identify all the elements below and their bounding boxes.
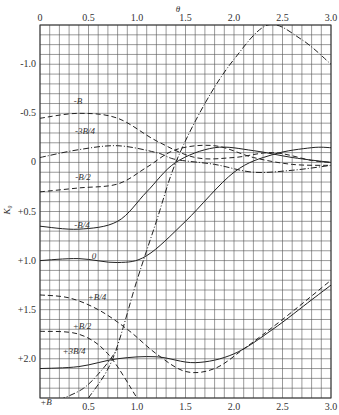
x-axis-title: θ (176, 4, 181, 14)
curve-label: 0 (92, 251, 97, 261)
curve-label: +3B/4 (62, 346, 86, 356)
y-tick: +0.5 (18, 206, 36, 217)
x-tick-bottom: 1.0 (131, 401, 144, 412)
x-tick-top: 2.0 (228, 12, 241, 23)
x-tick-top: 2.5 (276, 12, 289, 23)
curve-label: +B/4 (88, 292, 107, 302)
curve-label: +B (40, 397, 52, 407)
x-tick-top: 1.0 (131, 12, 144, 23)
curve-label: -B (74, 96, 83, 106)
x-tick-top: 0.5 (82, 12, 95, 23)
x-tick-bottom: 3.0 (325, 401, 338, 412)
curve-label: -B/2 (75, 172, 91, 182)
y-tick: -1.0 (20, 58, 36, 69)
x-tick-bottom: 0.5 (82, 401, 95, 412)
curve-label: +B/2 (73, 321, 92, 331)
y-tick: +2.0 (18, 353, 36, 364)
chart: 00.50.51.01.01.51.52.02.02.52.53.03.0-1.… (0, 0, 339, 415)
x-tick-top: 3.0 (325, 12, 338, 23)
grid (40, 25, 331, 398)
y-tick: +1.0 (18, 255, 36, 266)
x-tick-bottom: 2.0 (228, 401, 241, 412)
x-tick-bottom: 2.5 (276, 401, 289, 412)
x-tick-bottom: 1.5 (179, 401, 192, 412)
x-tick-top: 0 (38, 12, 43, 23)
y-tick: -0.5 (20, 107, 36, 118)
curve-label: -B/4 (74, 220, 90, 230)
x-tick-top: 1.5 (179, 12, 192, 23)
y-tick: 0 (31, 156, 36, 167)
y-axis-title: K₀ (2, 205, 12, 215)
curve-label: -3B/4 (75, 126, 95, 136)
y-tick: +1.5 (18, 304, 36, 315)
